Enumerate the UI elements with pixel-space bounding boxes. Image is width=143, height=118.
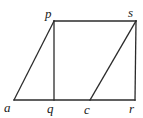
segment-side-a-p: [14, 21, 54, 100]
segment-side-s-r: [135, 21, 136, 100]
vertex-label-r: r: [129, 102, 134, 115]
vertex-label-a: a: [4, 101, 11, 114]
segment-diagonal-c-s: [90, 21, 136, 100]
vertex-label-s: s: [128, 6, 133, 19]
geometry-canvas: [0, 0, 143, 118]
vertex-label-p: p: [45, 7, 52, 20]
geometry-figure: p s a q c r: [0, 0, 143, 118]
vertex-label-q: q: [47, 102, 54, 115]
vertex-label-c: c: [84, 103, 90, 116]
